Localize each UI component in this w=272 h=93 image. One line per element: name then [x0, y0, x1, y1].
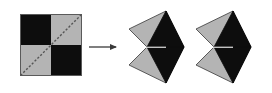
- quadrant-top-left: [21, 15, 52, 46]
- source-square-group: [21, 15, 82, 76]
- result-chevron-2-group: [196, 11, 251, 83]
- figure-svg: [0, 0, 272, 93]
- result-chevron-1-group: [129, 11, 184, 83]
- quadrant-bottom-right: [51, 45, 82, 76]
- figure-canvas: Checkerboard square dissected along its …: [0, 0, 272, 93]
